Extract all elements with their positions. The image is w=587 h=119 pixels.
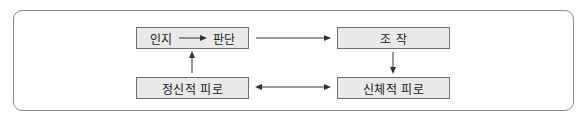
arrow-down-icon	[390, 52, 396, 74]
arrow-judgment-to-operation-icon	[256, 35, 331, 41]
double-arrow-fatigue-icon	[255, 84, 331, 90]
arrow-up-icon	[189, 51, 195, 73]
connector-layer	[0, 0, 587, 119]
